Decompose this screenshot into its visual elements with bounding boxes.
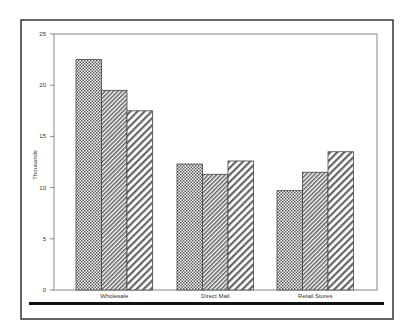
- y-tick-label: 10: [39, 185, 46, 191]
- bar: [127, 111, 153, 290]
- bar: [328, 152, 354, 290]
- y-tick-label: 15: [39, 133, 46, 139]
- bar: [228, 161, 254, 290]
- y-tick-label: 0: [43, 287, 47, 293]
- x-category-label: Retail Stores: [298, 293, 332, 299]
- bottom-rule: [29, 302, 384, 305]
- bar-chart: 0510152025 Thousands WholesaleDirect Mai…: [0, 0, 412, 335]
- x-category-label: Direct Mail: [201, 293, 229, 299]
- bar: [203, 174, 229, 290]
- y-tick-label: 25: [39, 31, 46, 37]
- y-axis: 0510152025: [39, 31, 54, 293]
- bar: [303, 172, 329, 290]
- x-axis-categories: WholesaleDirect MailRetail Stores: [100, 293, 332, 299]
- bars: [76, 60, 354, 290]
- bar: [177, 164, 203, 290]
- y-tick-label: 5: [43, 236, 47, 242]
- x-category-label: Wholesale: [100, 293, 129, 299]
- bar: [277, 191, 303, 290]
- bar: [102, 90, 128, 290]
- bar: [76, 60, 102, 290]
- y-tick-label: 20: [39, 82, 46, 88]
- y-axis-label: Thousands: [32, 150, 38, 180]
